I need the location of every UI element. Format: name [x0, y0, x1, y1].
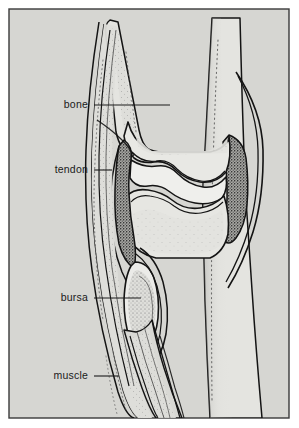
label-muscle-text: muscle	[54, 369, 88, 381]
label-bursa-text: bursa	[61, 291, 88, 303]
label-bone-text: bone	[64, 98, 88, 110]
label-tendon-text: tendon	[55, 163, 88, 175]
figure-root: bone tendon bursa muscle	[0, 0, 299, 428]
joint-anatomy-diagram: bone tendon bursa muscle	[0, 0, 299, 428]
